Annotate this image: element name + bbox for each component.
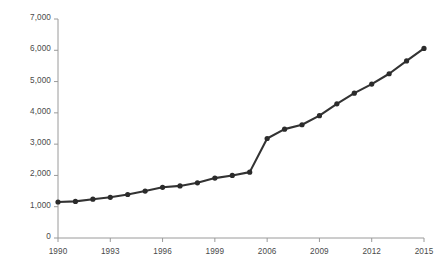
y-axis-tick-label: 5,000: [4, 76, 51, 85]
y-axis-tick-label: 1,000: [4, 201, 51, 210]
data-point: [108, 195, 113, 200]
y-axis-tick-label: 6,000: [4, 44, 51, 53]
data-point: [73, 199, 78, 204]
line-chart: 01,0002,0003,0004,0005,0006,0007,000 199…: [0, 0, 436, 269]
y-axis-ticks: [54, 19, 58, 238]
data-point: [299, 122, 304, 127]
data-point: [282, 127, 287, 132]
data-point: [334, 101, 339, 106]
y-axis-tick-label: 7,000: [4, 13, 51, 22]
y-axis-tick-label: 3,000: [4, 138, 51, 147]
data-point: [317, 113, 322, 118]
x-axis-tick-label: 1996: [143, 247, 183, 256]
data-point: [230, 173, 235, 178]
data-point-markers: [55, 46, 426, 205]
x-axis-tick-label: 2015: [404, 247, 436, 256]
data-point: [247, 170, 252, 175]
x-axis-tick-label: 1993: [90, 247, 130, 256]
y-axis-tick-label: 4,000: [4, 107, 51, 116]
data-point: [125, 192, 130, 197]
data-point: [352, 91, 357, 96]
data-point: [369, 81, 374, 86]
x-axis-tick-label: 2006: [247, 247, 287, 256]
data-point: [265, 136, 270, 141]
x-axis-tick-label: 1990: [38, 247, 78, 256]
x-axis-tick-label: 2009: [299, 247, 339, 256]
data-point: [387, 71, 392, 76]
plot-area: [0, 0, 436, 269]
y-axis-tick-label: 0: [4, 232, 51, 241]
data-line: [58, 48, 424, 202]
data-point: [55, 199, 60, 204]
data-point: [404, 58, 409, 63]
data-point: [90, 197, 95, 202]
data-point: [212, 175, 217, 180]
data-point: [177, 183, 182, 188]
x-axis-ticks: [58, 238, 424, 242]
data-point: [195, 180, 200, 185]
x-axis-tick-label: 2012: [352, 247, 392, 256]
data-point: [160, 185, 165, 190]
y-axis-tick-label: 2,000: [4, 169, 51, 178]
x-axis-tick-label: 1999: [195, 247, 235, 256]
data-point: [143, 188, 148, 193]
data-point: [421, 46, 426, 51]
